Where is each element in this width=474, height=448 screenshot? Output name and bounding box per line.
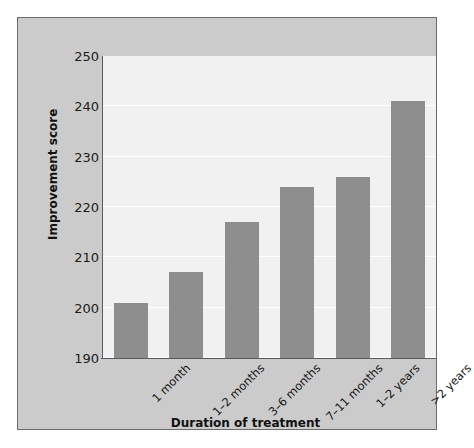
x-axis-tick-labels: 1 month1–2 months3–6 months7–11 months1–… <box>103 361 436 421</box>
y-axis-tick-label: 200 <box>57 302 99 315</box>
x-axis-tick-label: 3–6 months <box>265 361 323 419</box>
x-axis-tick-label: 1 month <box>149 361 193 405</box>
bar[interactable] <box>169 272 203 358</box>
bar[interactable] <box>114 303 148 358</box>
gridline <box>103 357 436 358</box>
x-axis-title: Duration of treatment <box>18 416 473 430</box>
y-axis-tick-labels: 190200210220230240250 <box>51 56 99 358</box>
y-axis-tick-label: 230 <box>57 151 99 164</box>
y-axis-tick-label: 190 <box>57 352 99 365</box>
x-axis-tick-label: >2 years <box>428 361 474 408</box>
bar[interactable] <box>391 101 425 358</box>
bar[interactable] <box>280 187 314 358</box>
bar[interactable] <box>336 177 370 358</box>
plot-area <box>103 56 436 358</box>
y-axis-tick-label: 240 <box>57 100 99 113</box>
y-axis-tick-label: 220 <box>57 201 99 214</box>
bar[interactable] <box>225 222 259 358</box>
chart-panel: Improvement score 190200210220230240250 … <box>17 17 437 430</box>
gridline <box>103 307 436 308</box>
gridline <box>103 105 436 106</box>
y-axis-tick-label: 250 <box>57 50 99 63</box>
gridline <box>103 156 436 157</box>
gridline <box>103 256 436 257</box>
x-axis-line <box>101 358 437 359</box>
x-axis-tick-label: 1–2 months <box>210 361 268 419</box>
gridline <box>103 206 436 207</box>
y-axis-tick-label: 210 <box>57 251 99 264</box>
x-axis-tick-label: 7–11 months <box>323 361 386 424</box>
